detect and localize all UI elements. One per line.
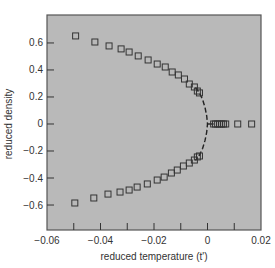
x-tick-label: −0.02	[141, 235, 167, 246]
scatter-chart: −0.06−0.04−0.0200.02 0.60.40.20−0.2−0.4−…	[0, 0, 275, 268]
y-tick-label: 0.2	[29, 91, 43, 102]
x-tick-label: −0.04	[88, 235, 114, 246]
y-axis-label: reduced density	[3, 89, 14, 160]
y-tick-label: 0.4	[29, 64, 43, 75]
x-axis-label: reduced temperature (t')	[101, 251, 208, 262]
x-tick-label: −0.06	[34, 235, 60, 246]
y-tick-label: −0.2	[23, 145, 43, 156]
x-tick-label: 0.02	[251, 235, 271, 246]
y-tick-label: −0.6	[23, 200, 43, 211]
y-tick-label: 0.6	[29, 37, 43, 48]
y-tick-label: 0	[37, 118, 43, 129]
x-tick-label: 0	[205, 235, 211, 246]
y-tick-label: −0.4	[23, 173, 43, 184]
